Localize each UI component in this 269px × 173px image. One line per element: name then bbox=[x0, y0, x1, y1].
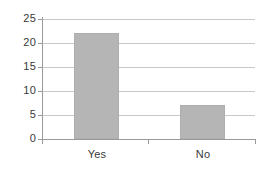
y-axis-line bbox=[42, 17, 43, 141]
plot-area bbox=[42, 19, 255, 139]
y-axis-label-20: 20 bbox=[2, 37, 36, 48]
y-axis-label-5: 5 bbox=[2, 109, 36, 120]
y-axis-label-25: 25 bbox=[2, 13, 36, 24]
gridline-25 bbox=[42, 19, 255, 20]
y-axis-label-0: 0 bbox=[2, 133, 36, 144]
y-axis-label-10: 10 bbox=[2, 85, 36, 96]
y-tick-5 bbox=[38, 115, 42, 116]
x-axis-line bbox=[42, 139, 256, 140]
y-axis-label-15: 15 bbox=[2, 61, 36, 72]
y-tick-25 bbox=[38, 19, 42, 20]
y-tick-10 bbox=[38, 91, 42, 92]
y-tick-20 bbox=[38, 43, 42, 44]
x-axis-label-no: No bbox=[163, 148, 243, 160]
y-tick-15 bbox=[38, 67, 42, 68]
bar-no bbox=[180, 105, 225, 139]
bar-yes bbox=[74, 33, 119, 139]
x-tick-right bbox=[255, 140, 256, 144]
x-tick-left bbox=[42, 140, 43, 144]
x-axis-label-yes: Yes bbox=[57, 148, 137, 160]
bar-chart: 25 20 15 10 5 0 Yes No bbox=[0, 0, 269, 173]
x-tick-middle bbox=[148, 140, 149, 144]
